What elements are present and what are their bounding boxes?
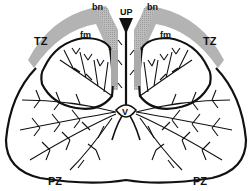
label-pz-right: PZ [193,176,207,187]
label-bn-left: bn [92,3,103,12]
prostate-diagram: UP bn bn TZ TZ fm fm s s V PZ PZ [0,0,252,191]
transition-zone-right [139,38,210,109]
label-fm-right: fm [160,31,171,40]
label-s-right: s [140,45,143,51]
label-tz-left: TZ [34,36,47,47]
transition-zone-left [41,38,112,109]
label-v: V [122,108,128,117]
label-tz-right: TZ [203,36,216,47]
label-bn-right: bn [147,3,158,12]
label-fm-left: fm [80,31,91,40]
label-pz-left: PZ [48,176,62,187]
prostate-illustration [0,0,252,191]
periurethral-stroma-right [134,50,141,86]
periurethral-stroma-left [111,50,118,86]
label-s-left: s [108,45,111,51]
label-up: UP [120,8,133,17]
